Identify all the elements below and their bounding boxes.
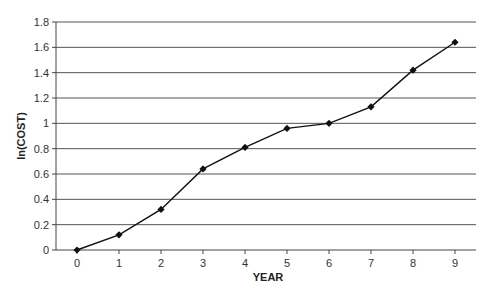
x-tick-label: 6 bbox=[326, 257, 332, 269]
x-axis-ticks: 0123456789 bbox=[74, 250, 458, 269]
gridlines bbox=[56, 22, 476, 225]
y-tick-label: 1.8 bbox=[34, 16, 49, 28]
x-tick-label: 0 bbox=[74, 257, 80, 269]
diamond-marker bbox=[283, 125, 290, 132]
diamond-marker bbox=[115, 231, 122, 238]
x-tick-label: 2 bbox=[158, 257, 164, 269]
y-tick-label: 0.8 bbox=[34, 143, 49, 155]
series-line bbox=[77, 42, 455, 250]
x-tick-label: 9 bbox=[452, 257, 458, 269]
y-tick-label: 1.2 bbox=[34, 92, 49, 104]
data-point-markers bbox=[73, 39, 458, 254]
y-tick-label: 0.6 bbox=[34, 168, 49, 180]
diamond-marker bbox=[241, 144, 248, 151]
x-tick-label: 4 bbox=[242, 257, 248, 269]
line-chart: 00.20.40.60.811.21.41.61.8 0123456789 YE… bbox=[0, 0, 496, 296]
y-axis-ticks: 00.20.40.60.811.21.41.61.8 bbox=[34, 16, 56, 256]
diamond-marker bbox=[73, 246, 80, 253]
x-tick-label: 7 bbox=[368, 257, 374, 269]
y-tick-label: 1 bbox=[43, 117, 49, 129]
diamond-marker bbox=[451, 39, 458, 46]
diamond-marker bbox=[325, 120, 332, 127]
x-tick-label: 5 bbox=[284, 257, 290, 269]
x-axis-title: YEAR bbox=[253, 271, 284, 283]
y-axis-title: ln(COST) bbox=[15, 112, 27, 160]
x-tick-label: 8 bbox=[410, 257, 416, 269]
y-tick-label: 0.4 bbox=[34, 193, 49, 205]
x-tick-label: 1 bbox=[116, 257, 122, 269]
x-tick-label: 3 bbox=[200, 257, 206, 269]
y-tick-label: 0 bbox=[43, 244, 49, 256]
y-tick-label: 0.2 bbox=[34, 219, 49, 231]
y-tick-label: 1.4 bbox=[34, 67, 49, 79]
y-tick-label: 1.6 bbox=[34, 41, 49, 53]
